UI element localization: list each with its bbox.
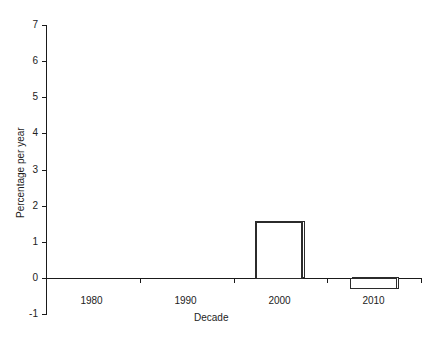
y-tick-label-6: 6 — [18, 56, 38, 66]
y-tick-label-1: 1 — [18, 237, 38, 247]
x-axis-title: Decade — [194, 313, 228, 323]
x-tick-label-2000: 2000 — [256, 296, 303, 306]
x-tick-label-1990: 1990 — [162, 296, 209, 306]
y-tick-label-5: 5 — [18, 92, 38, 102]
x-tick-label-2010: 2010 — [350, 296, 397, 306]
chart-canvas — [0, 0, 437, 337]
y-tick-label-neg1: -1 — [14, 309, 38, 319]
y-tick-marks — [42, 26, 47, 315]
y-tick-label-7: 7 — [18, 20, 38, 30]
x-tick-label-1980: 1980 — [68, 296, 115, 306]
y-tick-label-0: 0 — [18, 273, 38, 283]
bar-2000 — [256, 222, 302, 279]
y-axis-title: Percentage per year — [16, 127, 26, 218]
bar-chart-figure: 7 6 5 4 3 2 1 0 -1 1980 1990 2000 2010 P… — [0, 0, 437, 337]
bar-2010 — [351, 279, 397, 289]
